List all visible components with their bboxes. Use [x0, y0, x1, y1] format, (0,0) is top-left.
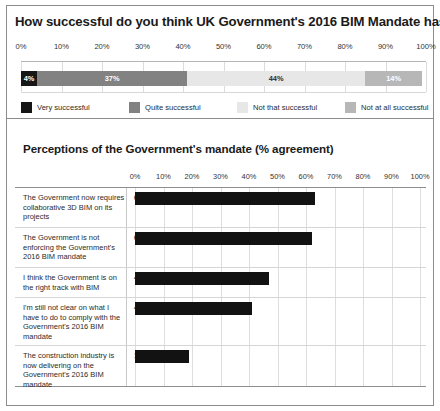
bottom-axis-tick: 70%: [327, 172, 342, 181]
top-axis-tick: 10%: [54, 42, 69, 51]
bottom-axis-tick: 90%: [384, 172, 399, 181]
legend-swatch: [237, 102, 248, 113]
top-axis-tick: 70%: [297, 42, 312, 51]
top-axis-tick: 80%: [337, 42, 352, 51]
top-chart-plot-area: 4%37%44%14%: [21, 61, 426, 93]
bottom-chart-panel: Perceptions of the Government's mandate …: [7, 119, 433, 406]
legend-swatch: [129, 102, 140, 113]
segment-value-label: 44%: [269, 74, 284, 83]
chart-row: I think the Government is on the right t…: [15, 268, 426, 298]
row-bar: [135, 350, 189, 363]
stacked-bar-segment: 14%: [365, 71, 422, 86]
row-label: The Government is not enforcing the Gove…: [23, 233, 126, 262]
row-label: The construction industry is now deliver…: [23, 351, 126, 389]
top-axis-tick: 90%: [378, 42, 393, 51]
top-axis-tick: 30%: [135, 42, 150, 51]
legend-label: Not at all successful: [361, 103, 429, 112]
bottom-axis-tick: 40%: [242, 172, 257, 181]
bottom-axis-tick: 80%: [356, 172, 371, 181]
gridline: [426, 62, 427, 92]
segment-value-label: 14%: [386, 74, 401, 83]
row-label: I'm still not clear on what I have to do…: [23, 303, 126, 341]
bottom-axis-tick: 60%: [299, 172, 314, 181]
segment-value-label: 37%: [105, 74, 120, 83]
top-chart-title: How successful do you think UK Governmen…: [15, 14, 427, 29]
row-bar: [135, 272, 269, 285]
legend-swatch: [21, 102, 32, 113]
top-axis-tick: 20%: [94, 42, 109, 51]
bottom-axis-tick: 0%: [130, 172, 141, 181]
stacked-bar-segment: 37%: [37, 71, 187, 86]
chart-row: The Government is not enforcing the Gove…: [15, 228, 426, 268]
top-chart-legend: Very successfulQuite successfulNot that …: [21, 101, 426, 115]
bottom-axis-tick: 20%: [185, 172, 200, 181]
bottom-axis-tick: 100%: [411, 172, 430, 181]
top-chart-axis: 0%10%20%30%40%50%60%70%80%90%100%: [21, 42, 426, 56]
bottom-chart-plot-area: The Government now requires collaborativ…: [15, 187, 426, 387]
legend-label: Very successful: [37, 103, 90, 112]
top-axis-tick: 60%: [256, 42, 271, 51]
bottom-chart-title: Perceptions of the Government's mandate …: [23, 142, 334, 155]
top-axis-tick: 100%: [416, 42, 435, 51]
top-axis-tick: 40%: [175, 42, 190, 51]
segment-value-label: 4%: [24, 74, 35, 83]
chart-row: I'm still not clear on what I have to do…: [15, 298, 426, 346]
legend-item: Very successful: [21, 101, 90, 113]
stacked-bar-segment: 44%: [187, 71, 365, 86]
bottom-axis-tick: 30%: [213, 172, 228, 181]
bottom-chart-axis: 0%10%20%30%40%50%60%70%80%90%100%: [7, 172, 433, 185]
row-bar: [135, 232, 312, 245]
row-bar: [135, 302, 252, 315]
infographic-page: How successful do you think UK Governmen…: [0, 0, 440, 411]
legend-swatch: [345, 102, 356, 113]
top-chart-panel: How successful do you think UK Governmen…: [7, 6, 433, 118]
top-axis-tick: 50%: [216, 42, 231, 51]
legend-label: Not that successful: [253, 103, 317, 112]
bottom-axis-tick: 10%: [156, 172, 171, 181]
legend-label: Quite successful: [145, 103, 201, 112]
stacked-bar: 4%37%44%14%: [21, 71, 426, 86]
chart-row: The Government now requires collaborativ…: [15, 188, 426, 228]
bottom-axis-tick: 50%: [270, 172, 285, 181]
legend-item: Not at all successful: [345, 101, 429, 113]
row-bar: [135, 192, 315, 205]
legend-item: Quite successful: [129, 101, 201, 113]
bottom-chart-rows: The Government now requires collaborativ…: [15, 188, 426, 386]
legend-item: Not that successful: [237, 101, 317, 113]
top-axis-tick: 0%: [16, 42, 27, 51]
chart-row: The construction industry is now deliver…: [15, 346, 426, 387]
row-label: I think the Government is on the right t…: [23, 273, 126, 292]
row-label: The Government now requires collaborativ…: [23, 193, 126, 222]
stacked-bar-segment: 4%: [21, 71, 37, 86]
